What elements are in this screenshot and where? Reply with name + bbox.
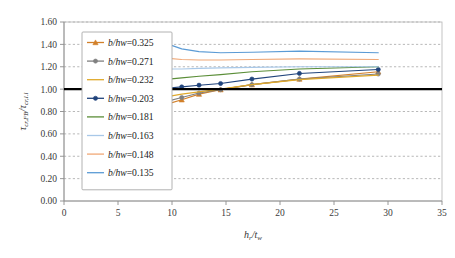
y-axis-title: τcr,FB/τcr,l.l	[17, 93, 30, 131]
legend: b/hw=0.325b/hw=0.271b/hw=0.232b/hw=0.203…	[82, 32, 172, 190]
x-tick-label-20: 20	[275, 208, 285, 218]
x-tick-label-25: 25	[329, 208, 339, 218]
legend-label-b/hw=0.135: b/hw=0.135	[108, 167, 154, 178]
x-tick-label-10: 10	[167, 208, 177, 218]
x-tick-label-0: 0	[62, 208, 67, 218]
marker-b/hw=0.203-6	[376, 67, 380, 71]
x-tick-label-35: 35	[437, 208, 447, 218]
legend-label-b/hw=0.203: b/hw=0.203	[108, 93, 154, 104]
marker-b/hw=0.203-5	[297, 71, 301, 75]
legend-marker-b/hw=0.271	[93, 59, 97, 63]
y-tick-label-0.80: 0.80	[40, 107, 57, 117]
legend-marker-b/hw=0.203	[93, 96, 97, 100]
x-tick-label-15: 15	[221, 208, 231, 218]
x-tick-label-5: 5	[116, 208, 121, 218]
y-tick-label-0.60: 0.60	[40, 129, 57, 139]
x-axis-title: hr/tw	[244, 229, 262, 242]
legend-label-b/hw=0.271: b/hw=0.271	[108, 56, 154, 67]
svg-text:τcr,FB/τcr,l.l: τcr,FB/τcr,l.l	[17, 93, 30, 131]
legend-label-b/hw=0.232: b/hw=0.232	[108, 74, 154, 85]
y-tick-label-1.60: 1.60	[40, 17, 57, 27]
marker-b/hw=0.203-2	[197, 83, 201, 87]
marker-b/hw=0.271-1	[180, 95, 184, 99]
legend-label-b/hw=0.325: b/hw=0.325	[108, 37, 154, 48]
marker-b/hw=0.203-4	[250, 77, 254, 81]
x-tick-label-30: 30	[383, 208, 393, 218]
y-tick-label-1.40: 1.40	[40, 40, 57, 50]
y-tick-label-0.20: 0.20	[40, 174, 57, 184]
chart-figure: 0.000.200.400.600.801.001.201.401.600510…	[0, 0, 455, 258]
y-tick-label-1.20: 1.20	[40, 62, 57, 72]
y-tick-label-1.00: 1.00	[40, 85, 57, 95]
legend-label-b/hw=0.163: b/hw=0.163	[108, 130, 154, 141]
chart-svg: 0.000.200.400.600.801.001.201.401.600510…	[0, 0, 455, 258]
legend-label-b/hw=0.148: b/hw=0.148	[108, 149, 154, 160]
marker-b/hw=0.203-3	[219, 81, 223, 85]
y-tick-label-0.00: 0.00	[40, 196, 57, 206]
y-tick-label-0.40: 0.40	[40, 152, 57, 162]
legend-label-b/hw=0.181: b/hw=0.181	[108, 111, 154, 122]
